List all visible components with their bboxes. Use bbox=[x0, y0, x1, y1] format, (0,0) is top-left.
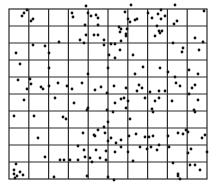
data-point bbox=[53, 176, 56, 179]
data-point bbox=[91, 161, 94, 164]
data-point bbox=[134, 73, 137, 76]
data-point bbox=[112, 111, 115, 114]
data-point bbox=[206, 151, 209, 154]
data-point bbox=[190, 148, 193, 151]
data-point bbox=[48, 52, 51, 55]
data-point bbox=[110, 137, 113, 140]
data-point bbox=[147, 12, 150, 15]
data-point bbox=[156, 25, 159, 28]
data-point bbox=[114, 151, 117, 154]
data-point bbox=[77, 159, 80, 162]
data-point bbox=[32, 18, 35, 21]
data-point bbox=[127, 151, 130, 154]
data-point bbox=[83, 149, 86, 152]
data-point bbox=[158, 90, 161, 93]
data-point bbox=[44, 45, 47, 48]
data-point bbox=[164, 90, 167, 93]
data-point bbox=[87, 12, 90, 15]
data-point bbox=[149, 91, 152, 94]
data-point bbox=[139, 146, 142, 149]
data-point bbox=[203, 10, 206, 13]
data-point bbox=[118, 26, 121, 29]
data-point bbox=[114, 57, 117, 60]
data-point bbox=[120, 28, 123, 31]
data-point bbox=[188, 93, 191, 96]
data-point bbox=[114, 102, 117, 105]
data-point bbox=[120, 98, 123, 101]
data-point bbox=[194, 84, 197, 87]
data-point bbox=[132, 160, 135, 163]
data-point bbox=[129, 21, 132, 24]
data-point bbox=[182, 133, 185, 136]
data-point bbox=[22, 174, 25, 177]
data-point bbox=[103, 44, 106, 47]
data-point bbox=[176, 20, 179, 23]
data-point bbox=[108, 54, 111, 57]
data-point bbox=[89, 157, 92, 160]
data-point bbox=[194, 37, 197, 40]
data-point bbox=[185, 129, 188, 132]
data-point bbox=[172, 162, 175, 165]
data-point bbox=[150, 146, 153, 149]
data-point bbox=[148, 136, 151, 139]
data-point bbox=[37, 137, 40, 140]
data-point bbox=[71, 12, 74, 15]
data-point bbox=[97, 24, 100, 27]
data-point bbox=[33, 115, 36, 118]
data-point bbox=[194, 164, 197, 167]
data-point bbox=[71, 88, 74, 91]
data-point bbox=[167, 71, 170, 74]
data-point bbox=[135, 133, 138, 136]
data-point bbox=[69, 159, 72, 162]
data-point bbox=[182, 47, 185, 50]
data-point bbox=[63, 159, 66, 162]
data-point bbox=[119, 31, 122, 34]
data-point bbox=[84, 24, 87, 27]
data-point bbox=[15, 52, 18, 55]
data-point bbox=[115, 142, 118, 145]
data-point bbox=[129, 118, 132, 121]
data-point bbox=[125, 33, 128, 36]
data-point bbox=[94, 135, 97, 138]
data-point bbox=[120, 139, 123, 142]
data-point bbox=[107, 121, 110, 124]
data-point bbox=[158, 97, 161, 100]
data-point bbox=[85, 34, 88, 37]
data-point bbox=[204, 134, 207, 137]
data-point bbox=[113, 85, 116, 88]
data-point bbox=[42, 88, 45, 91]
data-point bbox=[106, 109, 109, 112]
data-point bbox=[197, 99, 200, 102]
data-point bbox=[105, 159, 108, 162]
data-point bbox=[199, 169, 202, 172]
data-point bbox=[29, 78, 32, 81]
data-point bbox=[94, 89, 97, 92]
data-point bbox=[171, 100, 174, 103]
data-point bbox=[26, 88, 29, 91]
data-point bbox=[130, 4, 133, 7]
data-point bbox=[164, 15, 167, 18]
data-point bbox=[30, 20, 33, 23]
data-point bbox=[179, 85, 182, 88]
data-point bbox=[127, 100, 130, 103]
data-point bbox=[120, 40, 123, 43]
data-point bbox=[66, 85, 69, 88]
data-point bbox=[19, 63, 22, 66]
data-point bbox=[124, 11, 127, 14]
data-point bbox=[188, 69, 191, 72]
data-point bbox=[48, 85, 51, 88]
data-point bbox=[107, 67, 110, 70]
data-point bbox=[191, 87, 194, 90]
data-point bbox=[32, 44, 35, 47]
data-point bbox=[179, 178, 182, 181]
data-point bbox=[125, 87, 128, 90]
data-point bbox=[194, 111, 197, 114]
data-point bbox=[114, 43, 117, 46]
data-point bbox=[81, 82, 84, 85]
data-point bbox=[160, 9, 163, 12]
data-point bbox=[93, 34, 96, 37]
data-point bbox=[119, 49, 122, 52]
data-point bbox=[40, 86, 43, 89]
data-point bbox=[125, 107, 128, 110]
data-point bbox=[77, 145, 80, 148]
